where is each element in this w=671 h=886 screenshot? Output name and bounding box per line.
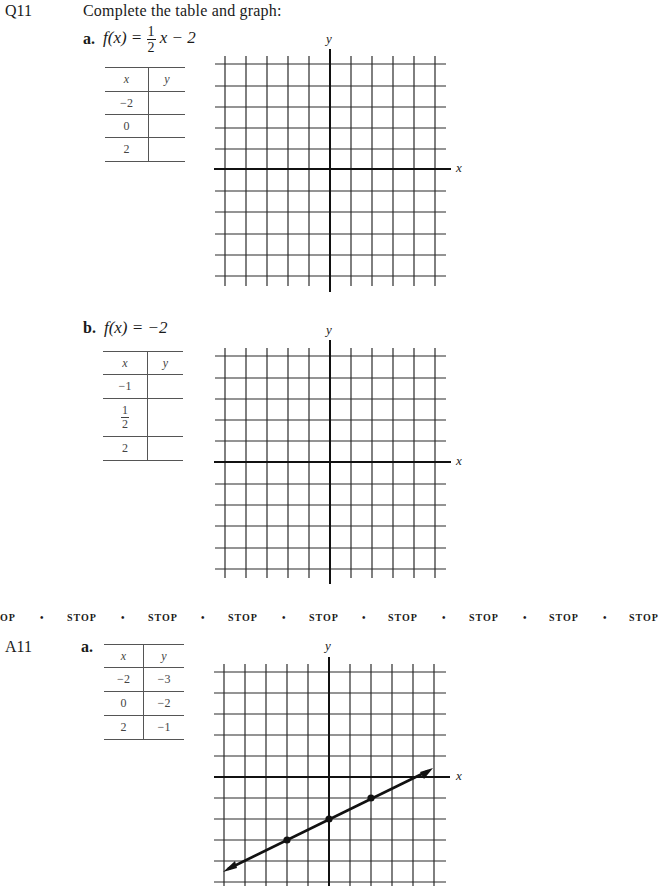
- fraction-denominator: 2: [147, 40, 156, 55]
- part-b-label: b.: [83, 319, 96, 337]
- point-0-neg2: [325, 815, 332, 822]
- table-row: 2: [105, 138, 185, 162]
- stop-strip: OP • STOP • STOP • STOP • STOP • STOP • …: [0, 610, 671, 628]
- cell-x: −2: [105, 92, 149, 115]
- table-row: −1: [103, 375, 183, 399]
- cell-x: 2: [105, 138, 149, 162]
- table-header-row: x y: [104, 645, 184, 668]
- cell-y-input[interactable]: [148, 437, 184, 461]
- table-row: 2 −1: [104, 716, 184, 740]
- part-a-function: f(x) = 1 2 x − 2: [103, 24, 196, 55]
- fraction-numerator: 1: [121, 404, 129, 418]
- bullet-separator: •: [121, 612, 126, 623]
- x-axis-label: x: [456, 768, 462, 784]
- stop-text: STOP: [549, 612, 579, 623]
- stop-text: STOP: [228, 612, 258, 623]
- instruction-text: Complete the table and graph:: [83, 2, 282, 20]
- header-x: x: [103, 352, 148, 375]
- cell-y-input[interactable]: [148, 375, 184, 399]
- fraction-denominator: 2: [121, 418, 129, 431]
- answer-number: A11: [5, 638, 32, 656]
- part-a-value-table: x y −2 0 2: [105, 67, 185, 162]
- header-y: y: [148, 352, 184, 375]
- part-b-heading: b. f(x) = −2: [83, 318, 167, 338]
- point-2-neg1: [367, 794, 374, 801]
- stop-text: OP: [0, 612, 16, 623]
- bullet-separator: •: [201, 612, 206, 623]
- cell-y-input[interactable]: [149, 92, 186, 115]
- cell-x: −2: [104, 668, 144, 692]
- table-row: 1 2: [103, 399, 183, 437]
- stop-text: STOP: [309, 612, 339, 623]
- cell-y: −2: [144, 692, 185, 716]
- function-prefix: f(x) =: [103, 28, 147, 47]
- table-header-row: x y: [105, 68, 185, 92]
- coordinate-grid: [210, 30, 470, 295]
- function-suffix: x − 2: [160, 28, 196, 47]
- header-x: x: [104, 645, 144, 668]
- y-axis-label: y: [326, 31, 332, 47]
- part-b-graph[interactable]: y x: [210, 322, 470, 587]
- answer-part-a-label: a.: [81, 638, 93, 656]
- y-axis-label: y: [326, 322, 332, 338]
- stop-text: STOP: [148, 612, 178, 623]
- stop-text: STOP: [388, 612, 418, 623]
- cell-y: −3: [144, 668, 185, 692]
- cell-x: −1: [103, 375, 148, 399]
- part-a-heading: a. f(x) = 1 2 x − 2: [83, 22, 196, 56]
- stop-text: STOP: [629, 612, 659, 623]
- answer-graph: y x: [210, 638, 470, 886]
- cell-x: 2: [103, 437, 148, 461]
- function-fraction: 1 2: [147, 24, 156, 55]
- left-arrow-icon: [223, 861, 237, 872]
- table-row: −2 −3: [104, 668, 184, 692]
- y-axis-label: y: [325, 638, 331, 654]
- bullet-separator: •: [362, 612, 367, 623]
- header-y: y: [149, 68, 186, 92]
- fraction-numerator: 1: [147, 24, 156, 40]
- cell-y: −1: [144, 716, 185, 740]
- coordinate-grid: [210, 322, 470, 587]
- cell-y-input[interactable]: [149, 138, 186, 162]
- bullet-separator: •: [40, 612, 45, 623]
- header-x: x: [105, 68, 149, 92]
- table-row: 0 −2: [104, 692, 184, 716]
- cell-x: 0: [104, 692, 144, 716]
- bullet-separator: •: [603, 612, 608, 623]
- part-a-graph[interactable]: y x: [210, 30, 470, 295]
- table-row: −2: [105, 92, 185, 115]
- cell-y-input[interactable]: [148, 399, 184, 437]
- header-y: y: [144, 645, 185, 668]
- cell-x: 0: [105, 115, 149, 138]
- point-neg2-neg3: [283, 836, 290, 843]
- part-b-value-table: x y −1 1 2 2: [103, 351, 183, 461]
- coordinate-grid: [210, 638, 470, 886]
- stop-text: STOP: [67, 612, 97, 623]
- answer-value-table: x y −2 −3 0 −2 2 −1: [104, 644, 184, 740]
- x-axis-label: x: [456, 453, 462, 469]
- bullet-separator: •: [282, 612, 287, 623]
- x-axis-label: x: [456, 160, 462, 176]
- cell-x-fraction: 1 2: [121, 404, 129, 431]
- part-a-label: a.: [83, 30, 95, 48]
- bullet-separator: •: [523, 612, 528, 623]
- cell-x: 1 2: [103, 399, 148, 437]
- cell-y-input[interactable]: [149, 115, 186, 138]
- table-row: 2: [103, 437, 183, 461]
- stop-text: STOP: [469, 612, 499, 623]
- part-b-function: f(x) = −2: [104, 318, 168, 338]
- table-header-row: x y: [103, 352, 183, 375]
- cell-x: 2: [104, 716, 144, 740]
- bullet-separator: •: [442, 612, 447, 623]
- question-number: Q11: [5, 2, 32, 20]
- table-row: 0: [105, 115, 185, 138]
